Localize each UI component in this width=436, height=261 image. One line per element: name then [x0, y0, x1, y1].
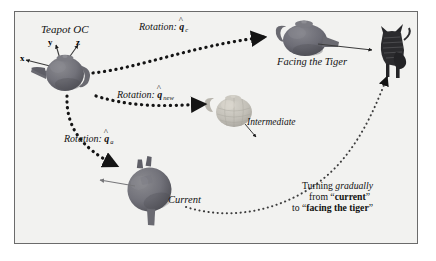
rotation-qa-symbol: ^q	[104, 133, 110, 144]
teapot-cur-handle-a	[135, 159, 144, 170]
teapot-oc-label: Teapot OC	[41, 23, 89, 35]
figure-canvas: Teapot OC x y z Rotation: ^qc Rotation: …	[0, 0, 436, 261]
teapot-knob	[62, 55, 67, 58]
teapot-origin-configuration	[26, 45, 90, 91]
rotation-qnew-label: Rotation: ^qnew	[117, 89, 174, 101]
rotation-qc-prefix: Rotation:	[139, 21, 177, 32]
tiger-figure	[381, 24, 410, 78]
rotation-arrow-qc	[93, 37, 265, 73]
axis-y-label: y	[48, 37, 53, 47]
intermediate-label: Intermediate	[247, 117, 296, 128]
annotation-line-3: to “facing the tiger”	[292, 203, 373, 214]
teapot-int-handle	[205, 98, 214, 112]
teapot-highlight	[50, 61, 66, 73]
rotation-qnew-prefix: Rotation:	[117, 89, 155, 100]
rotation-qa-label: Rotation: ^qa	[64, 133, 114, 145]
axis-z-label: z	[76, 37, 80, 47]
rotation-qc-subscript: c	[185, 26, 188, 33]
teapot-fb-shadow	[293, 44, 323, 56]
tiger-tail	[404, 28, 410, 40]
teapot-fb-knob	[301, 21, 307, 24]
facing-the-tiger-label: Facing the Tiger	[277, 56, 347, 68]
rotation-qc-symbol: ^q	[179, 21, 185, 32]
rotation-qnew-hat: ^	[157, 83, 161, 93]
annotation-line1-italic: gradually	[335, 180, 373, 191]
teapot-int-knob	[231, 95, 236, 98]
rotation-qa-prefix: Rotation:	[64, 133, 102, 144]
illustration-layer	[0, 0, 436, 261]
teapot-shadow	[55, 78, 81, 90]
rotation-qc-hat: ^	[179, 15, 183, 25]
axis-x-label: x	[20, 53, 25, 63]
tiger-leg-back	[396, 66, 400, 78]
gradual-turn-annotation: Turning gradually from “current” to “fac…	[292, 181, 373, 214]
current-label: Current	[168, 194, 201, 206]
teapot-current	[120, 152, 179, 230]
teapot-fb-highlight	[288, 27, 306, 39]
teapot-facing-tiger	[276, 21, 372, 57]
tiger-haunch	[394, 52, 406, 69]
annotation-line2-bold: current	[335, 191, 366, 202]
rotation-qnew-subscript: new	[163, 94, 173, 101]
rotation-qa-hat: ^	[104, 127, 108, 137]
rotation-qc-label: Rotation: ^qc	[139, 21, 188, 33]
rotation-qnew-symbol: ^q	[157, 89, 163, 100]
annotation-line3-bold: facing the tiger	[306, 202, 368, 213]
rotation-arrow-qa	[67, 96, 117, 166]
rotation-qa-subscript: a	[110, 138, 113, 145]
teapot-int-highlight	[221, 100, 235, 110]
annotation-line2-plain: from	[309, 191, 330, 202]
tiger-leg-front	[386, 64, 389, 77]
annotation-line2-quote-close: ”	[366, 191, 370, 202]
annotation-line3-quote-close: ”	[369, 202, 373, 213]
teapot-intermediate	[205, 95, 256, 137]
annotation-line1-plain: Turning	[302, 180, 335, 191]
annotation-line3-plain: to	[292, 202, 302, 213]
teapot-cur-handle-b	[143, 155, 153, 168]
